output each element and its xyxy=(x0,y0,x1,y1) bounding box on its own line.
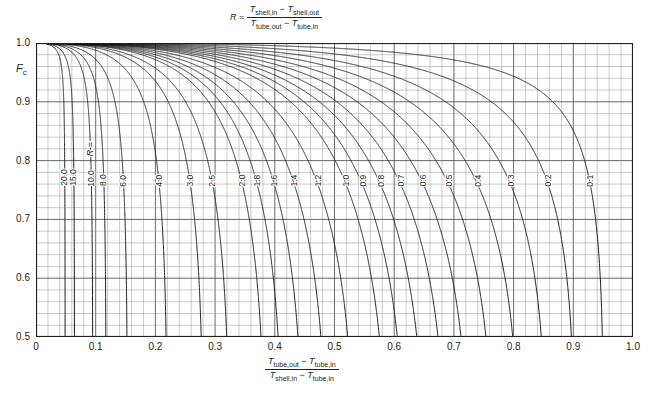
curve-label-0.9: 0.9 xyxy=(358,174,368,186)
curve-R-0.3 xyxy=(36,43,541,337)
y-tick-0.9: 0.9 xyxy=(0,96,30,107)
y-axis-title-sub: c xyxy=(23,68,27,77)
plot-area: 20.020.015.015.010.010.08.08.06.06.04.04… xyxy=(36,43,633,337)
t-subscript: tube,in xyxy=(315,361,336,368)
curve-label-4.0: 4.0 xyxy=(154,175,164,187)
y-tick-1.0: 1.0 xyxy=(0,37,30,48)
t-subscript: tube,out xyxy=(256,23,281,30)
curve-label-0.8: 0.8 xyxy=(376,175,386,187)
x-tick-0.1: 0.1 xyxy=(76,341,116,352)
t-subscript: tube,in xyxy=(313,375,334,382)
y-tick-0.7: 0.7 xyxy=(0,213,30,224)
minus-sign: − xyxy=(301,356,306,366)
curve-label-1.6: 1.6 xyxy=(269,174,279,186)
t-subscript: tube,in xyxy=(297,23,318,30)
curve-group xyxy=(36,43,602,337)
p-fraction: Ttube,out − Ttube,in Tshell,in − Ttube,i… xyxy=(265,357,339,382)
r-fraction: Tshell,in − Tshell,out Ttube,out − Ttube… xyxy=(247,5,322,30)
equals-sign: = xyxy=(239,12,244,22)
curve-label-1.2: 1.2 xyxy=(313,174,323,186)
y-axis-title: Fc xyxy=(16,62,27,77)
x-axis-formula: Ttube,out − Ttube,in Tshell,in − Ttube,i… xyxy=(265,357,339,382)
x-tick-0.5: 0.5 xyxy=(315,341,355,352)
curve-R-6.0 xyxy=(36,43,127,337)
curve-label-0.4: 0.4 xyxy=(473,175,483,187)
r-denominator: Ttube,out − Ttube,in xyxy=(247,18,322,30)
curve-R-0.5 xyxy=(36,43,486,337)
r-definition-formula: R = Tshell,in − Tshell,out Ttube,out − T… xyxy=(230,5,322,30)
curve-label-1.0: 1.0 xyxy=(341,175,351,187)
curve-label-2.5: 2.5 xyxy=(207,175,217,187)
curve-label-8.0: 8.0 xyxy=(98,174,108,186)
r-equals-label: R = xyxy=(85,142,95,156)
t-subscript: shell,in xyxy=(255,9,277,16)
curve-R-10.0 xyxy=(36,43,93,337)
p-numerator: Ttube,out − Ttube,in xyxy=(265,357,339,370)
curve-label-10.0: 10.0 xyxy=(86,170,96,187)
curve-label-0.2: 0.2 xyxy=(543,174,553,186)
curve-R-0.2 xyxy=(36,43,571,337)
y-tick-0.6: 0.6 xyxy=(0,272,30,283)
x-tick-0.9: 0.9 xyxy=(553,341,593,352)
curve-label-1.8: 1.8 xyxy=(252,174,262,186)
curve-label-6.0: 6.0 xyxy=(118,175,128,187)
curve-R-0.6 xyxy=(36,43,461,337)
x-tick-1.0: 1.0 xyxy=(613,341,653,352)
curve-R-0.8 xyxy=(36,43,417,337)
curve-R-1.8 xyxy=(36,43,278,337)
curve-R-0.1 xyxy=(36,43,602,337)
curve-label-0.6: 0.6 xyxy=(418,174,428,186)
chart-svg: 20.020.015.015.010.010.08.08.06.06.04.04… xyxy=(36,43,633,337)
t-subscript: shell,in xyxy=(275,375,297,382)
p-denominator: Tshell,in − Ttube,in xyxy=(265,370,339,382)
curve-label-0.7: 0.7 xyxy=(396,174,406,186)
curve-R-1.2 xyxy=(36,43,348,337)
curve-label-0.5: 0.5 xyxy=(444,174,454,186)
x-tick-0.3: 0.3 xyxy=(195,341,235,352)
curve-R-15.0 xyxy=(36,43,74,337)
curve-R-20.0 xyxy=(36,43,65,337)
y-tick-0.8: 0.8 xyxy=(0,155,30,166)
curve-label-3.0: 3.0 xyxy=(185,175,195,187)
curve-label-0.1: 0.1 xyxy=(585,175,595,187)
r-numerator: Tshell,in − Tshell,out xyxy=(247,5,322,18)
curve-label-2.0: 2.0 xyxy=(237,174,247,186)
curve-R-1.4 xyxy=(36,43,321,337)
t-subscript: tube,out xyxy=(274,361,299,368)
curve-R-4.0 xyxy=(36,43,166,337)
y-axis-title-text: F xyxy=(16,62,23,74)
chart-root: R = Tshell,in − Tshell,out Ttube,out − T… xyxy=(0,0,653,395)
x-tick-0: 0 xyxy=(16,341,56,352)
x-tick-0.4: 0.4 xyxy=(255,341,295,352)
minus-sign: − xyxy=(284,18,289,28)
x-tick-0.6: 0.6 xyxy=(374,341,414,352)
x-tick-0.7: 0.7 xyxy=(434,341,474,352)
minus-sign: − xyxy=(300,370,305,380)
x-tick-0.2: 0.2 xyxy=(135,341,175,352)
minus-sign: − xyxy=(280,4,285,14)
curve-label-0.3: 0.3 xyxy=(506,174,516,186)
curve-label-1.4: 1.4 xyxy=(289,174,299,186)
curve-R-1.0 xyxy=(36,43,379,337)
curve-R-3.0 xyxy=(36,43,201,337)
curve-label-15.0: 15.0 xyxy=(68,169,78,186)
x-tick-0.8: 0.8 xyxy=(494,341,534,352)
t-subscript: shell,out xyxy=(293,9,319,16)
r-symbol: R xyxy=(230,12,237,22)
